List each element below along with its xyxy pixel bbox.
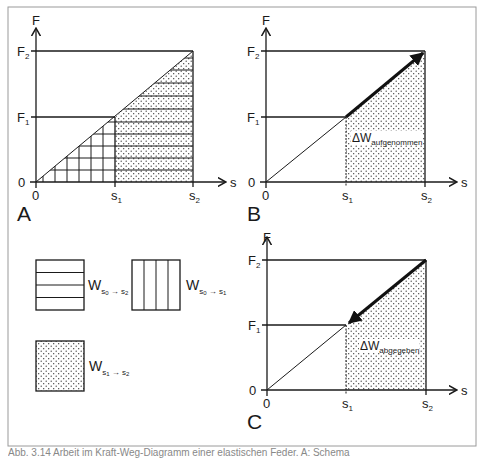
panel-a-tick-x0: 0: [32, 188, 39, 203]
panel-a-tick-f2: F2: [17, 44, 30, 61]
panel-a-x-axis-label: s: [230, 175, 237, 190]
panel-c-tick-f1: F1: [248, 318, 261, 335]
legend-label-w-s1-s2: Ws1 → s2: [89, 358, 130, 377]
legend-item-horizontal: Ws0 → s2: [36, 260, 129, 310]
panel-c-tick-s2: s2: [422, 396, 434, 413]
panel-b-dotted-region: [346, 51, 425, 182]
panel-b-tick-x0: 0: [262, 188, 269, 203]
panel-b-tick-s2: s2: [421, 188, 433, 205]
panel-b: F s F2 F1 0 0 s1 s2 ΔWaufgenommen B: [247, 13, 468, 225]
panel-b-force-line: [266, 117, 346, 182]
figure-canvas: F s F2 F1 0 0 s1 s2 A F s F2 F1 0 0 s1 s…: [0, 0, 483, 459]
panel-c-force-line: [267, 325, 346, 390]
legend-label-w-s0-s2: Ws0 → s2: [88, 277, 129, 296]
figure-root: F s F2 F1 0 0 s1 s2 A F s F2 F1 0 0 s1 s…: [0, 0, 483, 459]
panel-a-dotted-region: [115, 51, 193, 182]
panel-c-x-axis-label: s: [461, 383, 468, 398]
panel-b-label: B: [247, 202, 261, 225]
panel-b-tick-s1: s1: [342, 188, 354, 205]
panel-b-tick-f2: F2: [247, 44, 260, 61]
panel-c-tick-x0: 0: [263, 396, 270, 411]
panel-c-tick-f2: F2: [248, 253, 261, 270]
panel-a-tick-f1: F1: [17, 110, 30, 127]
panel-b-tick-f1: F1: [247, 110, 260, 127]
figure-caption: Abb. 3.14 Arbeit im Kraft-Weg-Diagramm e…: [8, 447, 478, 459]
panel-a-label: A: [17, 202, 31, 225]
panel-a-y-axis-label: F: [32, 13, 40, 28]
legend-item-dotted: Ws1 → s2: [36, 341, 130, 391]
legend-item-vertical: Ws0 → s1: [132, 260, 227, 310]
panel-a-tick-s1: s1: [111, 188, 123, 205]
panel-a: F s F2 F1 0 0 s1 s2 A: [17, 13, 237, 225]
panel-c: F s F2 F1 0 0 s1 s2 ΔWabgegeben C: [247, 230, 468, 433]
legend-label-w-s0-s1: Ws0 → s1: [186, 277, 227, 296]
panel-c-tick-y0: 0: [249, 383, 256, 398]
panel-b-x-axis-label: s: [461, 175, 468, 190]
panel-c-dotted-region: [346, 260, 426, 390]
panel-c-y-axis-label: F: [263, 230, 271, 245]
panel-b-y-axis-label: F: [262, 13, 270, 28]
panel-a-tick-y0: 0: [18, 175, 25, 190]
panel-a-tick-s2: s2: [189, 188, 201, 205]
panel-c-label: C: [247, 410, 262, 433]
legend-swatch-dotted: [36, 341, 84, 391]
panel-c-tick-s1: s1: [342, 396, 354, 413]
panel-b-tick-y0: 0: [248, 175, 255, 190]
legend: Ws0 → s2 Ws0 → s1 Ws1 → s2: [36, 260, 227, 391]
